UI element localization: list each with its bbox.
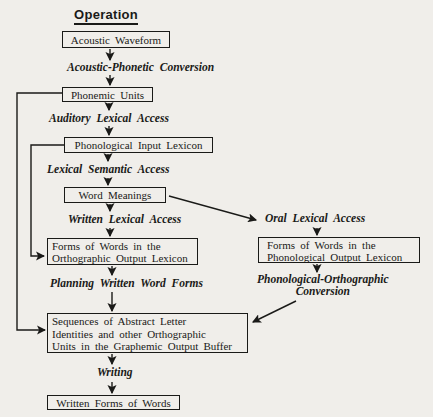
process-lexical-semantic-access: Lexical Semantic Access [47, 163, 169, 175]
node-orthographic-output-lexicon: Forms of Words in the Orthographic Outpu… [47, 238, 198, 265]
process-phonological-orthographic-conversion: Phonological-Orthographic Conversion [257, 273, 389, 297]
arrow-conversion-to-buffer [253, 301, 296, 322]
process-writing: Writing [97, 366, 133, 378]
flowchart-page: Operation Acoustic Waveform Phonemic Uni… [0, 0, 433, 417]
node-label: Acoustic Waveform [71, 34, 161, 46]
process-oral-lexical-access: Oral Lexical Access [265, 212, 365, 224]
node-label: Word Meanings [79, 189, 152, 201]
node-label-line: Sequences of Abstract Letter [52, 315, 247, 328]
flow-arrows [0, 0, 433, 417]
node-label-line: Units in the Graphemic Output Buffer [52, 340, 247, 353]
route-phonemic-to-buffer [17, 93, 62, 330]
node-acoustic-waveform: Acoustic Waveform [62, 31, 170, 48]
process-label-line: Conversion [257, 285, 389, 297]
node-label-line: Identities and other Orthographic [52, 328, 247, 341]
node-phonological-input-lexicon: Phonological Input Lexicon [64, 137, 213, 153]
node-graphemic-output-buffer: Sequences of Abstract Letter Identities … [47, 313, 248, 353]
node-word-meanings: Word Meanings [64, 187, 166, 203]
node-label-line: Phonological Output Lexicon [267, 251, 419, 263]
node-label: Phonological Input Lexicon [75, 139, 203, 151]
node-label-line: Forms of Words in the [52, 240, 197, 252]
node-label: Phonemic Units [71, 89, 144, 101]
node-phonemic-units: Phonemic Units [62, 87, 153, 102]
node-label-line: Orthographic Output Lexicon [52, 252, 197, 264]
node-label: Written Forms of Words [56, 397, 170, 409]
process-acoustic-phonetic-conversion: Acoustic-Phonetic Conversion [67, 61, 214, 73]
diagram-title: Operation [74, 7, 138, 25]
arrow-meanings-to-oralaccess [169, 196, 256, 220]
node-label-line: Forms of Words in the [267, 239, 419, 251]
process-planning-written-word-forms: Planning Written Word Forms [50, 277, 203, 289]
node-written-forms-of-words: Written Forms of Words [47, 395, 180, 410]
process-label-line: Phonological-Orthographic [257, 273, 389, 285]
process-auditory-lexical-access: Auditory Lexical Access [49, 112, 169, 124]
node-phonological-output-lexicon: Forms of Words in the Phonological Outpu… [258, 237, 420, 263]
process-written-lexical-access: Written Lexical Access [68, 213, 181, 225]
